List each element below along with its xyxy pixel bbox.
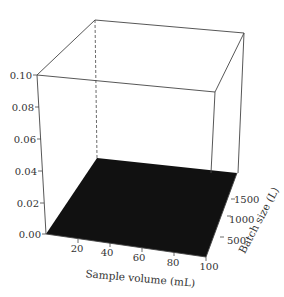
svg-text:40: 40	[101, 247, 114, 258]
svg-text:60: 60	[133, 252, 146, 263]
svg-text:0.10: 0.10	[10, 70, 32, 81]
box-edge-back-right	[238, 33, 244, 173]
x-axis-label: Sample volume (mL)	[85, 267, 196, 289]
svg-text:0.08: 0.08	[12, 102, 34, 113]
svg-text:0.04: 0.04	[15, 166, 37, 177]
svg-text:20: 20	[71, 243, 84, 254]
surface-plot-3d: 0.10 0.08 0.06 0.04 0.02 0.00 20 40 60 8…	[0, 0, 284, 297]
box-edge-front-left	[37, 75, 46, 234]
svg-text:0.00: 0.00	[19, 229, 41, 240]
box-edge-front-right	[211, 92, 215, 173]
svg-text:0.06: 0.06	[14, 134, 36, 145]
box-top	[37, 20, 244, 92]
box-edge-back-left-dashed	[95, 20, 97, 158]
svg-text:100: 100	[199, 261, 218, 272]
svg-text:1500: 1500	[234, 194, 259, 205]
z-axis-ticks: 0.10 0.08 0.06 0.04 0.02 0.00	[10, 70, 46, 240]
svg-text:80: 80	[167, 257, 180, 268]
svg-text:0.02: 0.02	[17, 198, 39, 209]
